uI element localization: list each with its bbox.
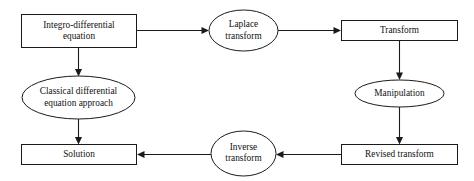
edge-revised-to-inverse [276,151,341,158]
node-classical-differential-equation-approach[interactable] [22,76,135,119]
edge-transform-to-manipulation [396,41,403,81]
node-solution[interactable] [22,145,137,165]
edge-equation-to-classical [75,48,82,77]
flowchart-canvas: Integro-differential equation Laplace tr… [0,0,474,181]
node-manipulation[interactable] [355,80,444,107]
edge-manipulation-to-revised [396,107,403,145]
edge-laplace-to-transform [278,27,341,34]
node-inverse-transform[interactable] [211,131,276,176]
edge-inverse-to-solution [137,151,211,158]
node-revised-transform[interactable] [342,145,458,165]
flowchart-svg [0,0,474,181]
node-laplace-transform[interactable] [209,10,278,51]
node-integro-differential-equation[interactable] [22,15,137,48]
edge-equation-to-laplace [137,27,209,34]
edge-classical-to-solution [75,119,82,145]
node-transform[interactable] [342,21,458,41]
